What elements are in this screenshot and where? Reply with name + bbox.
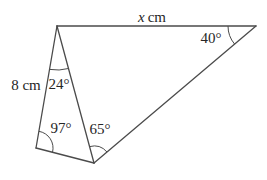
angle-arc-apex (50, 69, 69, 71)
label-side-8cm: 8 cm (11, 77, 41, 93)
angle-arc-bottom-middle (90, 146, 107, 152)
geometry-diagram: xcm 40° 8 cm 24° 97° 65° (0, 0, 267, 180)
edge-diagonal (94, 26, 256, 163)
label-angle-65: 65° (90, 121, 111, 137)
angle-arc-top-right (228, 26, 235, 44)
edge-middle (57, 26, 94, 163)
geometry-figure: xcm 40° 8 cm 24° 97° 65° (0, 0, 267, 180)
label-angle-97: 97° (51, 120, 72, 136)
edge-bottom (36, 148, 94, 163)
figure-labels: xcm 40° 8 cm 24° 97° 65° (11, 9, 221, 137)
label-angle-40: 40° (201, 30, 222, 46)
label-angle-24: 24° (49, 76, 70, 92)
label-side-x-unit: cm (148, 9, 167, 25)
label-side-x: xcm (137, 9, 166, 25)
figure-edges (36, 26, 256, 163)
label-side-x-variable: x (137, 9, 145, 25)
